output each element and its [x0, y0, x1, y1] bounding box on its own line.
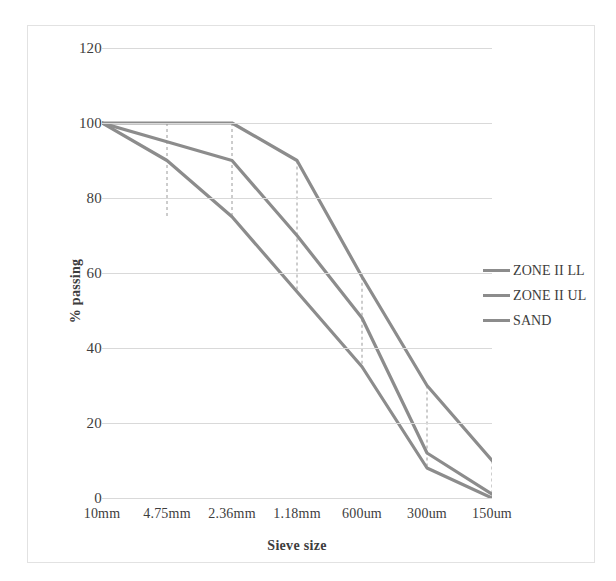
x-tick-label: 10mm	[84, 506, 121, 522]
y-tick-label: 20	[56, 415, 102, 432]
gridline	[102, 123, 492, 124]
y-tick-label: 100	[56, 115, 102, 132]
legend-line-icon	[483, 294, 510, 297]
legend-line-icon	[483, 319, 510, 322]
legend-item[interactable]: SAND	[483, 308, 595, 333]
legend-item[interactable]: ZONE II UL	[483, 283, 595, 308]
y-tick-label: 120	[56, 40, 102, 57]
x-tick-label: 4.75mm	[143, 506, 190, 522]
x-tick-label: 150um	[472, 506, 512, 522]
y-tick-label: 80	[56, 190, 102, 207]
legend-line-icon	[483, 269, 510, 272]
x-tick-label: 1.18mm	[273, 506, 320, 522]
x-tick-label: 300um	[407, 506, 447, 522]
y-tick-label: 60	[56, 265, 102, 282]
legend-label: ZONE II UL	[513, 288, 586, 304]
plot-area	[102, 48, 492, 498]
legend-item[interactable]: ZONE II LL	[483, 258, 595, 283]
gridline	[102, 48, 492, 49]
chart-legend: ZONE II LLZONE II ULSAND	[483, 258, 595, 333]
legend-label: SAND	[513, 313, 552, 329]
x-axis-title: Sieve size	[102, 538, 492, 554]
y-tick-label: 0	[56, 490, 102, 507]
chart-figure: % passing 020406080100120 10mm4.75mm2.36…	[0, 0, 616, 581]
gridline	[102, 198, 492, 199]
gridline	[102, 423, 492, 424]
x-tick-label: 600um	[342, 506, 382, 522]
y-tick-label: 40	[56, 340, 102, 357]
gridline	[102, 273, 492, 274]
y-axis-tick-labels: 020406080100120	[50, 48, 102, 498]
legend-label: ZONE II LL	[513, 263, 585, 279]
x-axis-tick-labels: 10mm4.75mm2.36mm1.18mm600um300um150um	[102, 506, 492, 530]
gridline	[102, 348, 492, 349]
x-tick-label: 2.36mm	[208, 506, 255, 522]
gridline	[102, 498, 492, 499]
